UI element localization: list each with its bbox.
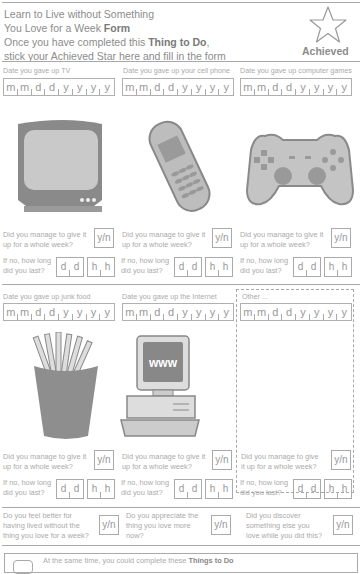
hours-input-other[interactable]: hh — [324, 479, 352, 499]
days-input-internet[interactable]: dd — [174, 479, 202, 499]
date-input-cell-phone[interactable]: mmddyyyy — [122, 78, 234, 96]
question-howlong-junk-food: If no, how longdid you last? — [3, 478, 51, 498]
days-input-junk-food[interactable]: dd — [56, 479, 84, 499]
final-question-discover: Did you discoversomething else youlove w… — [246, 511, 322, 541]
question-howlong-other: If no, how longdid you last? — [240, 478, 288, 498]
question-howlong-tv: If no, how longdid you last? — [3, 256, 51, 276]
row-rule-3 — [2, 545, 360, 546]
top-rule — [2, 2, 360, 3]
label-other: Other ... — [242, 292, 268, 301]
computer-www-icon: www — [117, 332, 203, 442]
days-input-other[interactable]: dd — [293, 479, 321, 499]
svg-text:www: www — [148, 356, 178, 370]
hours-input-junk-food[interactable]: hh — [87, 479, 115, 499]
achieved-label: Achieved — [302, 45, 349, 57]
checklist-icon — [13, 560, 33, 574]
final-question-feel-better: Do you feel better forhaving lived witho… — [3, 511, 89, 541]
yn-week-internet[interactable]: y/n — [212, 450, 232, 470]
date-input-computer-games[interactable]: mmddyyyy — [240, 78, 352, 96]
yn-appreciate[interactable]: y/n — [211, 515, 231, 535]
header-line-3: Once you have completed this Thing to Do… — [4, 35, 226, 49]
game-controller-icon — [245, 130, 355, 210]
tv-icon — [14, 118, 114, 214]
days-input-tv[interactable]: dd — [56, 257, 84, 277]
label-tv: Date you gave up TV — [3, 66, 70, 75]
footer-text: At the same time, you could complete the… — [43, 556, 234, 565]
footer-box: At the same time, you could complete the… — [4, 553, 358, 573]
header-line-2: You Love for a Week Form — [4, 21, 226, 35]
hours-input-internet[interactable]: hh — [205, 479, 233, 499]
fries-icon — [26, 332, 106, 442]
yn-discover[interactable]: y/n — [333, 515, 353, 535]
final-question-appreciate: Do you appreciate thething you love more… — [126, 511, 198, 541]
yn-week-tv[interactable]: y/n — [94, 228, 114, 248]
yn-feel-better[interactable]: y/n — [99, 515, 119, 535]
date-input-junk-food[interactable]: mmddyyyy — [3, 303, 115, 321]
row-rule-2 — [2, 507, 360, 508]
yn-week-junk-food[interactable]: y/n — [94, 450, 114, 470]
yn-week-games[interactable]: y/n — [331, 228, 351, 248]
header-rule — [2, 61, 360, 62]
days-input-games[interactable]: dd — [293, 257, 321, 277]
label-computer-games: Date you gave up computer games — [240, 66, 352, 75]
question-week-tv: Did you manage to give itup for a whole … — [3, 230, 86, 250]
header-line-1: Learn to Live without Something — [4, 7, 226, 21]
days-input-cell[interactable]: dd — [174, 257, 202, 277]
question-howlong-games: If no, how longdid you last? — [240, 256, 288, 276]
hours-input-cell[interactable]: hh — [205, 257, 233, 277]
cell-phone-icon — [140, 115, 220, 215]
label-internet: Date you gave up the Internet — [122, 292, 217, 301]
hours-input-tv[interactable]: hh — [87, 257, 115, 277]
hours-input-games[interactable]: hh — [324, 257, 352, 277]
question-howlong-cell: If no, how longdid you last? — [121, 256, 169, 276]
question-week-junk-food: Did you manage to give itup for a whole … — [3, 452, 86, 472]
yn-week-cell[interactable]: y/n — [212, 228, 232, 248]
question-week-games: Did you manage to give itup for a whole … — [240, 230, 323, 250]
question-week-other: Did you manage to giveit up for a whole … — [241, 452, 319, 472]
date-input-tv[interactable]: mmddyyyy — [3, 78, 115, 96]
form-header: Learn to Live without Something You Love… — [4, 7, 226, 63]
row-rule-1 — [2, 284, 360, 285]
date-input-other[interactable]: mmddyyyy — [240, 303, 352, 321]
label-cell-phone: Date you gave up your cell phone — [123, 66, 230, 75]
label-junk-food: Date you gave up junk food — [3, 292, 91, 301]
star-icon — [308, 5, 348, 45]
yn-week-other[interactable]: y/n — [331, 450, 351, 470]
question-howlong-internet: If no, how longdid you last? — [121, 478, 169, 498]
question-week-internet: Did you manage to give itup for a whole … — [122, 452, 205, 472]
question-week-cell: Did you manage to give itup for a whole … — [122, 230, 205, 250]
date-input-internet[interactable]: mmddyyyy — [122, 303, 234, 321]
